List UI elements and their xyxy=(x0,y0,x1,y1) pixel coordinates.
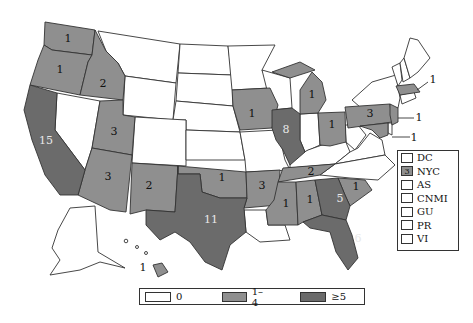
state-ks xyxy=(186,130,245,160)
label-ia: 1 xyxy=(249,107,256,120)
callout-line-ma xyxy=(417,82,428,90)
state-me xyxy=(404,38,430,78)
label-mi: 1 xyxy=(309,88,316,101)
state-fl xyxy=(303,215,358,270)
legend-swatch xyxy=(401,180,413,190)
legend-row-as: AS xyxy=(401,178,458,192)
legend-item-five-plus: ≥5 xyxy=(300,291,346,302)
legend-label: CNMI xyxy=(417,193,448,204)
label-il: 8 xyxy=(283,123,290,136)
state-hi xyxy=(153,263,168,277)
label-oh: 1 xyxy=(329,118,336,131)
legend-row-cnmi: CNMI xyxy=(401,192,458,206)
hawaii-island xyxy=(124,239,128,243)
hawaii-island xyxy=(145,252,148,255)
legend-row-dc: DC xyxy=(401,151,458,165)
legend-swatch xyxy=(300,292,326,302)
state-nj xyxy=(390,104,398,125)
state-ny xyxy=(352,75,400,108)
label-ar: 3 xyxy=(259,179,266,192)
state-de xyxy=(388,123,392,135)
legend-swatch xyxy=(145,292,171,302)
legend-swatch xyxy=(401,193,413,203)
legend-label: PR xyxy=(417,220,431,231)
label-tx: 11 xyxy=(204,213,218,226)
legend-swatch xyxy=(401,153,413,163)
legend-swatch xyxy=(401,207,413,217)
label-al: 1 xyxy=(307,193,314,206)
count-legend: 0 1–4 ≥5 xyxy=(139,288,365,305)
label-wa: 1 xyxy=(65,32,72,45)
label-tn: 2 xyxy=(308,165,315,178)
label-az: 3 xyxy=(105,170,112,183)
label-ut: 3 xyxy=(111,125,118,138)
legend-row-vi: VI xyxy=(401,232,458,246)
legend-row-nyc: 3 NYC xyxy=(401,165,458,179)
label-md: 1 xyxy=(411,131,418,144)
label-nm: 2 xyxy=(146,179,153,192)
legend-swatch xyxy=(401,234,413,244)
label-hi: 1 xyxy=(140,261,147,274)
label-ga: 5 xyxy=(337,192,344,205)
state-ak xyxy=(50,206,125,275)
state-co xyxy=(132,117,186,166)
legend-row-gu: GU xyxy=(401,205,458,219)
legend-swatch xyxy=(401,220,413,230)
label-fl: 6 xyxy=(355,232,362,245)
territory-legend: DC 3 NYC AS CNMI GU PR VI xyxy=(397,150,459,251)
label-sc: 1 xyxy=(353,180,360,193)
state-wy xyxy=(123,76,176,120)
state-ma xyxy=(396,84,420,95)
legend-label: AS xyxy=(417,179,431,190)
label-id: 2 xyxy=(100,77,107,90)
state-nd xyxy=(178,44,232,75)
label-ms: 1 xyxy=(283,197,290,210)
legend-label: GU xyxy=(417,206,433,217)
legend-label: ≥5 xyxy=(331,291,346,302)
state-sd xyxy=(176,73,233,106)
label-ma: 1 xyxy=(430,73,437,86)
state-nm xyxy=(130,163,178,214)
label-or: 1 xyxy=(57,63,64,76)
hawaii-island xyxy=(136,246,139,249)
legend-label: DC xyxy=(417,152,433,163)
legend-label: 1–4 xyxy=(252,286,269,308)
label-ok: 1 xyxy=(219,171,226,184)
legend-row-pr: PR xyxy=(401,219,458,233)
label-pa: 3 xyxy=(367,107,374,120)
legend-item-zero: 0 xyxy=(145,291,182,302)
legend-label: VI xyxy=(417,233,428,244)
legend-item-one-to-four: 1–4 xyxy=(222,286,268,308)
legend-label: NYC xyxy=(417,166,440,177)
label-nj: 1 xyxy=(416,111,423,124)
label-ca: 15 xyxy=(39,134,53,147)
legend-swatch: 3 xyxy=(401,166,413,176)
legend-swatch xyxy=(222,292,246,302)
legend-label: 0 xyxy=(176,291,182,302)
